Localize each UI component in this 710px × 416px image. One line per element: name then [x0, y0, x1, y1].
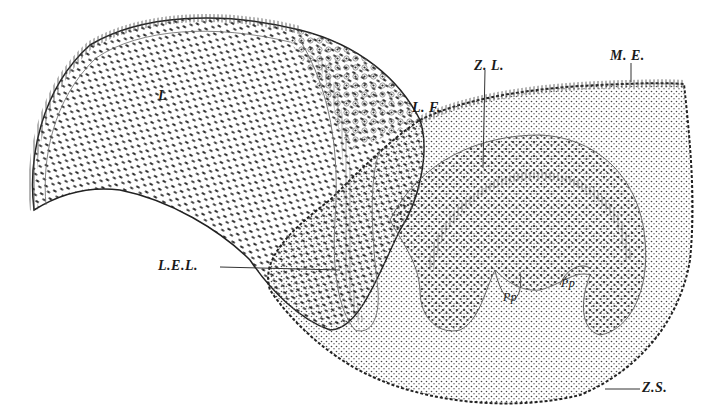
label-zl: Z. L. — [474, 58, 504, 74]
label-pp-right: Pp — [561, 276, 575, 291]
tooth-germ-section-illustration — [0, 0, 710, 416]
label-pp-left: Pp — [503, 290, 517, 305]
label-lf: L. F. — [412, 100, 441, 116]
label-lel: L.E.L. — [158, 258, 198, 274]
label-l: L — [158, 88, 167, 104]
label-me: M. E. — [610, 48, 645, 64]
label-zs: Z.S. — [642, 380, 667, 396]
